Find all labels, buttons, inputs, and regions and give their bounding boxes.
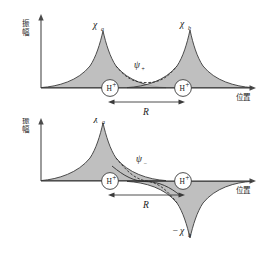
- label-chi-a-2: χ a: [93, 118, 105, 125]
- label-minus-chi-b-subscript: b: [188, 232, 191, 238]
- distance-arrow: R: [108, 99, 185, 117]
- y-axis-label-2-char2: 幅: [22, 124, 30, 134]
- label-minus-chi-b-symbol: χ: [179, 226, 185, 236]
- y-axis-label-2-char1: 振: [22, 118, 30, 125]
- label-chi-b: χ b: [179, 19, 191, 31]
- label-psi-minus-subscript: −: [143, 160, 147, 166]
- curve-chi-a-2: [41, 123, 166, 181]
- y-axis-label-2: 振 幅: [22, 118, 30, 134]
- distance-label: R: [142, 107, 149, 117]
- label-psi-plus: ψ +: [134, 60, 145, 72]
- atom-right: H +: [175, 80, 192, 97]
- distance-arrow-2: R: [108, 192, 185, 210]
- label-minus-chi-b-prefix: −: [172, 226, 178, 236]
- label-psi-minus-symbol: ψ: [136, 154, 143, 164]
- y-axis-label-char1: 振: [22, 18, 30, 28]
- antibonding-chart: χ a − χ b ψ − H + H: [0, 118, 278, 254]
- distance-arrow-head-left-2: [108, 192, 115, 197]
- atom-left-charge: +: [112, 80, 116, 89]
- curve-chi-b: [127, 30, 252, 88]
- distance-arrow-head-right: [179, 99, 186, 104]
- atom-left-2: H +: [102, 173, 119, 190]
- distance-label-2: R: [142, 200, 149, 210]
- y-axis-label: 振 幅: [22, 18, 30, 37]
- atom-right-charge: +: [185, 80, 189, 89]
- label-psi-plus-symbol: ψ: [134, 60, 141, 70]
- atom-left-charge-2: +: [112, 173, 116, 182]
- label-chi-a: χ a: [92, 20, 104, 32]
- figure-root: χ a χ b ψ + H + H +: [0, 0, 278, 254]
- y-axis-label-char2: 幅: [22, 27, 30, 37]
- label-chi-a-subscript: a: [101, 26, 104, 32]
- atom-right-charge-2: +: [185, 173, 189, 182]
- label-chi-a-symbol: χ: [92, 20, 98, 30]
- atom-left: H +: [102, 80, 119, 97]
- distance-arrow-head-left: [108, 99, 115, 104]
- label-psi-minus: ψ −: [136, 154, 147, 166]
- label-chi-b-subscript: b: [188, 25, 191, 31]
- y-axis-arrow: [38, 14, 43, 21]
- label-chi-a-symbol-2: χ: [93, 118, 99, 123]
- label-chi-b-symbol: χ: [179, 19, 185, 29]
- label-psi-plus-subscript: +: [141, 66, 145, 72]
- atom-right-2: H +: [175, 173, 192, 190]
- x-axis-label: 位置: [236, 92, 251, 102]
- panel-bonding: χ a χ b ψ + H + H +: [0, 0, 278, 127]
- x-axis-label-2: 位置: [236, 185, 251, 195]
- panel-antibonding: χ a − χ b ψ − H + H: [0, 118, 278, 254]
- label-chi-a-subscript-2: a: [102, 119, 105, 125]
- bonding-chart: χ a χ b ψ + H + H +: [0, 0, 278, 127]
- curve-chi-a: [41, 31, 166, 88]
- y-axis-arrow-2: [38, 118, 43, 125]
